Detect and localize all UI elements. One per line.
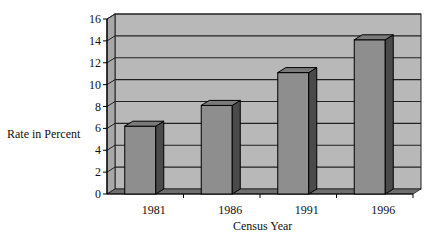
y-tick-label: 14 [89, 34, 101, 48]
x-axis-label: Census Year [233, 219, 292, 234]
y-tick-label: 8 [95, 100, 101, 114]
y-tick-label: 12 [89, 56, 101, 70]
y-tick-label: 16 [89, 12, 101, 26]
bar-1996 [354, 40, 385, 194]
y-tick-label: 0 [95, 187, 101, 201]
x-tick-label: 1991 [295, 203, 319, 217]
x-tick-label: 1981 [142, 203, 166, 217]
bar-side-1986 [232, 100, 240, 194]
y-tick-label: 10 [89, 78, 101, 92]
x-tick-label: 1986 [218, 203, 242, 217]
x-tick-label: 1996 [371, 203, 395, 217]
bar-1981 [125, 126, 156, 194]
y-axis-label: Rate in Percent [7, 127, 80, 142]
y-tick-label: 6 [95, 121, 101, 135]
bar-side-1996 [385, 35, 393, 194]
bar-chart: 02468101214161981198619911996 [0, 0, 445, 246]
bar-side-1981 [156, 121, 164, 194]
y-tick-label: 4 [95, 143, 101, 157]
bar-1991 [278, 73, 309, 194]
bar-side-1991 [309, 68, 317, 194]
y-tick-label: 2 [95, 165, 101, 179]
bar-1986 [201, 105, 232, 194]
